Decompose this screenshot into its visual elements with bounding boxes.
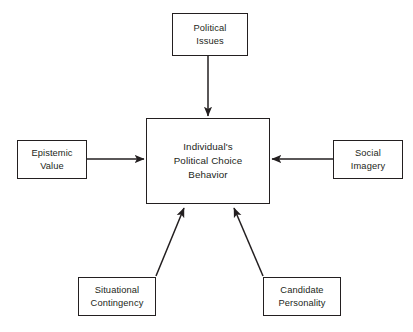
node-candidate-personality-label: Candidate Personality (275, 284, 328, 310)
connector-candidate-personality-to-center (234, 208, 263, 276)
node-political-issues: Political Issues (172, 13, 248, 56)
node-candidate-personality: Candidate Personality (263, 277, 341, 316)
node-epistemic-value-label: Epistemic Value (28, 147, 75, 173)
flow-diagram: Political Issues Epistemic Value Individ… (0, 0, 413, 332)
node-social-imagery-label: Social Imagery (348, 147, 388, 173)
node-individuals-political-choice-behavior-label: Individual's Political Choice Behavior (171, 140, 246, 182)
node-social-imagery: Social Imagery (333, 140, 403, 179)
node-individuals-political-choice-behavior: Individual's Political Choice Behavior (146, 118, 270, 204)
connector-situational-contingency-to-center (156, 208, 184, 276)
node-situational-contingency-label: Situational Contingency (88, 284, 147, 310)
node-epistemic-value: Epistemic Value (17, 140, 87, 179)
node-political-issues-label: Political Issues (191, 22, 230, 48)
node-situational-contingency: Situational Contingency (78, 277, 156, 316)
